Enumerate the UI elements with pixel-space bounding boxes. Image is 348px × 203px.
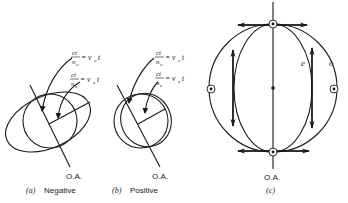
svg-text:o: o [160, 62, 163, 67]
equation-ve: ct n e = v e t [155, 70, 185, 88]
extraordinary-wavefront-ellipse [0, 80, 100, 164]
svg-text:e: e [75, 84, 78, 89]
optic-axis-label: O.A. [264, 173, 280, 182]
equation-vo: ct n o = v o t [71, 49, 101, 67]
label-o-curve: o [329, 58, 334, 68]
caption-letter-a: (a) [26, 186, 36, 195]
optic-axis-label: O.A. [152, 172, 168, 181]
svg-text:= v: = v [80, 75, 91, 84]
svg-text:t: t [98, 53, 101, 62]
bottom-polarization-dot-icon [269, 148, 277, 156]
center-dot [271, 86, 275, 90]
ordinary-wavefront-circle [23, 94, 77, 148]
birefringence-figure: ct n o = v o t ct n e = v e t O.A. (a) N… [0, 0, 348, 203]
radius-line [138, 109, 165, 124]
radius-line [49, 102, 90, 124]
leader-arrow-vo [42, 58, 72, 111]
svg-text:= v: = v [81, 53, 92, 62]
caption-letter-c: (c) [266, 186, 275, 195]
svg-text:e: e [93, 80, 96, 85]
svg-text:= v: = v [165, 53, 176, 62]
svg-text:ct: ct [72, 49, 78, 57]
svg-text:o: o [178, 58, 181, 63]
panel-c-polarization: e o O.A. (c) [207, 2, 338, 195]
panel-b-positive: ct n o = v o t ct n e = v e t O.A. (b) P… [112, 49, 185, 195]
svg-text:o: o [76, 62, 79, 67]
left-polarization-dot-icon [207, 85, 215, 93]
caption-letter-b: (b) [112, 186, 122, 195]
svg-text:= v: = v [165, 74, 176, 83]
equation-vo: ct n o = v o t [155, 49, 185, 67]
panel-a-negative: ct n o = v o t ct n e = v e t O.A. (a) N… [0, 49, 101, 195]
equation-ve: ct n e = v e t [70, 71, 100, 89]
svg-text:ct: ct [156, 70, 162, 78]
caption-positive: Positive [130, 186, 159, 195]
svg-text:e: e [178, 79, 181, 84]
label-e-curve: e [301, 58, 305, 68]
svg-text:t: t [182, 74, 185, 83]
optic-axis-label: O.A. [66, 172, 82, 181]
svg-text:t: t [182, 53, 185, 62]
ordinary-wavefront-circle [114, 94, 168, 148]
svg-text:o: o [94, 58, 97, 63]
svg-text:ct: ct [156, 49, 162, 57]
svg-text:ct: ct [71, 71, 77, 79]
svg-text:t: t [97, 75, 100, 84]
caption-negative: Negative [44, 186, 76, 195]
top-polarization-dot-icon [269, 20, 277, 28]
right-polarization-dot-icon [330, 85, 338, 93]
svg-text:e: e [160, 83, 163, 88]
